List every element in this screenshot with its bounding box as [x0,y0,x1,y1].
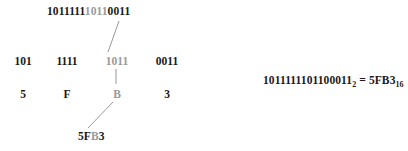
conversion-equation: 10111111011000112 = 5FB316 [263,74,404,86]
hex-digit-1: F [48,88,86,100]
binary-prefix: 1011111 [47,5,85,17]
nibble-group-0: 101 [6,55,40,67]
equation-hex-base: 16 [396,80,404,89]
hex-digit-2: B [98,88,136,100]
hex-digit-0: 5 [6,88,40,100]
connector-binary-to-group [108,21,119,52]
hex-result-highlighted: B [91,130,99,142]
nibble-group-3: 0011 [148,55,186,67]
equation-operator: = [356,74,369,86]
connector-digit-to-result [88,102,113,128]
equation-binary-value: 1011111101100011 [263,74,352,86]
nibble-group-2: 1011 [98,55,136,67]
nibble-group-1: 1111 [48,55,86,67]
equation-hex-value: 5FB3 [369,74,396,86]
binary-suffix: 0011 [108,5,131,17]
hex-digit-3: 3 [148,88,186,100]
binary-to-hex-diagram: 101111110110011 101 1111 1011 0011 5 F B… [0,0,408,151]
equation-binary-base: 2 [352,80,356,89]
hex-result-prefix: 5F [78,130,91,142]
binary-highlighted-nibble: 1011 [85,5,108,17]
hex-result: 5FB3 [78,130,105,142]
binary-string-full: 101111110110011 [47,5,130,17]
hex-result-suffix: 3 [99,130,105,142]
